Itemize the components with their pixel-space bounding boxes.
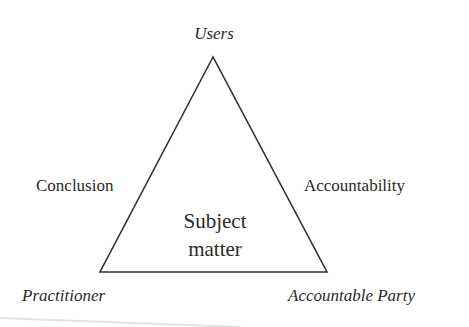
vertex-label-users: Users bbox=[194, 25, 234, 42]
center-label-line2: matter bbox=[184, 235, 247, 263]
edge-label-conclusion: Conclusion bbox=[36, 177, 113, 194]
center-label-line1: Subject bbox=[184, 207, 247, 235]
triangle-diagram bbox=[0, 0, 469, 327]
edge-label-accountability: Accountability bbox=[304, 177, 405, 194]
page-edge-artifact bbox=[0, 318, 240, 327]
vertex-label-practitioner: Practitioner bbox=[22, 287, 105, 304]
vertex-label-accountable-party: Accountable Party bbox=[288, 287, 415, 304]
center-label-subject-matter: Subject matter bbox=[184, 207, 247, 263]
